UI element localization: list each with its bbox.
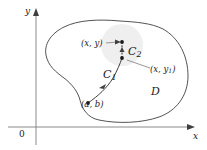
x-axis-label: x <box>193 132 198 141</box>
math-figure: y x 0 (x, y) (x, y1) (a, b) C1 C2 D <box>0 0 207 150</box>
y-axis-label: y <box>25 7 30 16</box>
origin-label: 0 <box>19 130 25 139</box>
point-xy1-label-tail: ) <box>172 64 175 74</box>
curve-c2-label: C2 <box>128 46 141 59</box>
x-axis-arrowhead <box>187 124 195 130</box>
curve-c2-label-subscript: 2 <box>136 50 141 59</box>
point-xy1-label: (x, y1) <box>150 65 176 74</box>
point-xy1-label-text: (x, y <box>150 64 168 74</box>
dot-point-xy1 <box>120 56 124 60</box>
curve-c1-label: C1 <box>103 69 116 82</box>
curve-c1-label-subscript: 1 <box>111 73 116 82</box>
y-axis-arrowhead <box>33 8 39 16</box>
point-ab-label: (a, b) <box>81 100 104 109</box>
region-label-d: D <box>151 86 160 97</box>
point-xy-label: (x, y) <box>81 39 103 48</box>
